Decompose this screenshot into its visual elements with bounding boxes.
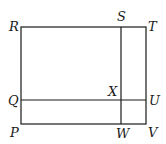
label-r: R [8,19,19,34]
label-x: X [107,84,118,99]
label-v: V [148,125,159,140]
rectangle-diagram: R S T Q X U P W V [0,0,166,144]
label-u: U [149,93,161,108]
outer-rectangle-rtvp [21,27,146,124]
label-t: T [148,19,158,34]
label-q: Q [8,93,19,108]
label-p: P [9,125,19,140]
label-w: W [116,126,131,141]
label-s: S [117,9,126,24]
